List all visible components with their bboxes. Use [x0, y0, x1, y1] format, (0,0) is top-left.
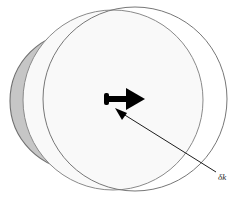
displacement-arrow-tail-bulb: [104, 93, 109, 105]
figure-root: δk: [0, 0, 245, 204]
delta-k-label: δk: [218, 172, 227, 182]
displacement-arrow-shaft: [107, 96, 128, 102]
sphere-diagram-canvas: δk: [0, 0, 245, 204]
